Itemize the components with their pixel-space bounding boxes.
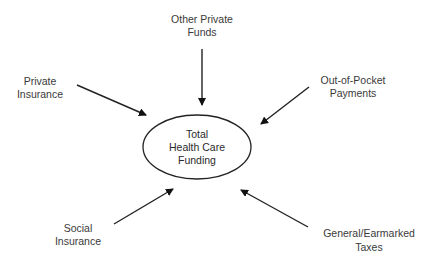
source-general-earmarked-taxes: General/EarmarkedTaxes <box>241 190 415 253</box>
arrow-social-insurance <box>114 189 173 224</box>
out-of-pocket-payments-label-line-1: Out-of-Pocket <box>321 74 386 86</box>
other-private-funds-label-line-2: Funds <box>187 26 216 38</box>
center-label-line-1: Total <box>186 128 208 140</box>
center-node: Total Health Care Funding <box>143 115 251 179</box>
general-earmarked-taxes-label-line-2: Taxes <box>355 241 382 253</box>
source-other-private-funds: Other PrivateFunds <box>171 13 233 105</box>
arrow-private-insurance <box>77 85 146 115</box>
private-insurance-label-line-1: Private <box>24 75 57 87</box>
general-earmarked-taxes-label-line-1: General/Earmarked <box>323 227 415 239</box>
social-insurance-label-line-1: Social <box>64 222 93 234</box>
arrow-out-of-pocket-payments <box>261 87 309 124</box>
other-private-funds-label-line-1: Other Private <box>171 13 233 25</box>
out-of-pocket-payments-label-line-2: Payments <box>330 87 377 99</box>
center-label-line-3: Funding <box>178 154 216 166</box>
center-label-line-2: Health Care <box>169 141 225 153</box>
arrow-general-earmarked-taxes <box>241 190 308 227</box>
source-social-insurance: SocialInsurance <box>55 189 173 247</box>
source-private-insurance: PrivateInsurance <box>17 75 146 115</box>
source-out-of-pocket-payments: Out-of-PocketPayments <box>261 74 385 124</box>
private-insurance-label-line-2: Insurance <box>17 88 63 100</box>
funding-diagram: Total Health Care Funding Other PrivateF… <box>0 0 429 261</box>
social-insurance-label-line-2: Insurance <box>55 235 101 247</box>
